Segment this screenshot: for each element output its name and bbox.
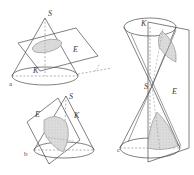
figure-b-label-apex: S bbox=[69, 92, 73, 101]
figure-c-label-plane: E bbox=[171, 87, 177, 96]
figure-c-lower-hyperbola-branch bbox=[148, 112, 178, 150]
conic-sections-svg: S K E a S E K b bbox=[0, 0, 194, 175]
figure-b: S E K b bbox=[24, 92, 94, 164]
figure-b-label-cone: K bbox=[73, 111, 80, 120]
figure-a-label-plane: E bbox=[72, 45, 78, 54]
figure-a-ellipse-section bbox=[31, 37, 63, 55]
figure-a-caption: a bbox=[9, 80, 13, 88]
figure-c-hidden-generator-upper bbox=[152, 29, 163, 86]
figure-a-angle-arc bbox=[95, 64, 99, 71]
figure-b-caption: b bbox=[24, 150, 28, 158]
figure-a-label-cone: K bbox=[32, 66, 39, 75]
figure-c-label-apex: S bbox=[144, 82, 148, 91]
conic-sections-figure-plate: S K E a S E K b bbox=[0, 0, 194, 175]
figure-a-cutting-plane bbox=[18, 28, 98, 71]
figure-c-lower-left-generator bbox=[120, 86, 152, 148]
figure-b-parabola-section bbox=[44, 116, 68, 152]
figure-c-label-cone: K bbox=[140, 19, 147, 28]
figure-c: K S E c bbox=[117, 18, 189, 162]
figure-a: S K E a bbox=[9, 9, 112, 88]
figure-a-label-apex: S bbox=[48, 9, 52, 18]
figure-c-caption: c bbox=[117, 146, 120, 154]
figure-b-label-plane: E bbox=[34, 110, 40, 119]
